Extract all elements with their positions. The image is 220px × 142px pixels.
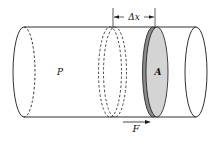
left-end-ellipse	[13, 27, 35, 117]
cylinder-diagram: Δx F P A	[0, 0, 220, 142]
force-label: F	[132, 123, 141, 134]
pressure-label: P	[56, 67, 64, 77]
cylinder-body	[24, 27, 196, 117]
delta-x-label: Δx	[127, 12, 140, 22]
right-end-ellipse	[185, 27, 207, 117]
area-label: A	[154, 67, 162, 77]
initial-disk-position	[99, 27, 127, 117]
